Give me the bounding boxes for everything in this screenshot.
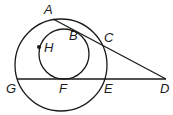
- large-circle: [15, 19, 107, 111]
- label-B: B: [69, 28, 78, 43]
- label-H: H: [44, 40, 54, 55]
- point-H-dot: [37, 45, 41, 49]
- label-F: F: [59, 81, 68, 96]
- label-G: G: [6, 81, 16, 96]
- label-D: D: [160, 81, 169, 96]
- label-C: C: [104, 30, 114, 45]
- geometry-diagram: A B C D E F G H: [0, 0, 173, 115]
- label-E: E: [104, 81, 113, 96]
- label-A: A: [43, 2, 53, 17]
